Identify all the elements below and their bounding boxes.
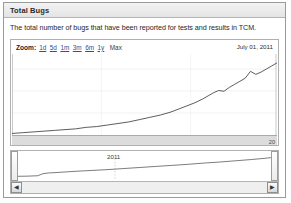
vertical-gridlines xyxy=(101,54,190,135)
chevron-right-icon: ▶ xyxy=(270,185,275,191)
scroll-right-button[interactable]: ▶ xyxy=(267,182,278,193)
chevron-left-icon: ◀ xyxy=(14,185,19,191)
zoom-label: Zoom: xyxy=(16,44,36,51)
scroll-left-button[interactable]: ◀ xyxy=(11,182,22,193)
navigator-handle-left[interactable] xyxy=(11,151,18,181)
zoom-range-max[interactable]: Max xyxy=(110,44,122,51)
total-bugs-panel: Total Bugs The total number of bugs that… xyxy=(3,2,286,198)
navigator-handle-right[interactable] xyxy=(271,151,278,181)
horizontal-scrollbar[interactable]: ◀ ▶ xyxy=(11,181,278,193)
x-axis-strip: 20 xyxy=(12,135,277,145)
navigator-frame[interactable]: 2011 ◀ ▶ xyxy=(10,150,279,194)
zoom-range-1m[interactable]: 1m xyxy=(60,44,69,51)
navigator-chart-svg xyxy=(11,151,278,181)
panel-header: Total Bugs xyxy=(4,3,285,18)
gridlines xyxy=(12,69,277,113)
navigator-series-line xyxy=(11,157,278,177)
navigator-year-label: 2011 xyxy=(107,153,120,160)
zoom-range-6m[interactable]: 6m xyxy=(85,44,94,51)
main-chart-svg xyxy=(12,54,277,145)
zoom-range-5d[interactable]: 5d xyxy=(50,44,57,51)
zoom-control-bar: Zoom: 1d5d1m3m6m1yMax July 01, 2011 xyxy=(11,40,278,54)
zoom-range-links: 1d5d1m3m6m1yMax xyxy=(39,44,122,51)
page-title: Total Bugs xyxy=(10,6,49,15)
zoom-range-3m[interactable]: 3m xyxy=(73,44,82,51)
zoom-range-1d[interactable]: 1d xyxy=(39,44,46,51)
main-chart-frame: Zoom: 1d5d1m3m6m1yMax July 01, 2011 xyxy=(10,39,279,146)
data-series-line xyxy=(12,63,277,134)
zoom-range-1y[interactable]: 1y xyxy=(98,44,105,51)
main-plot-area[interactable]: 20 xyxy=(12,54,277,145)
panel-description: The total number of bugs that have been … xyxy=(4,18,285,36)
chart-date-label: July 01, 2011 xyxy=(237,43,273,50)
navigator-plot-area[interactable]: 2011 xyxy=(11,151,278,181)
scrollbar-track[interactable] xyxy=(22,182,267,193)
x-axis-end-label: 20 xyxy=(269,139,275,145)
